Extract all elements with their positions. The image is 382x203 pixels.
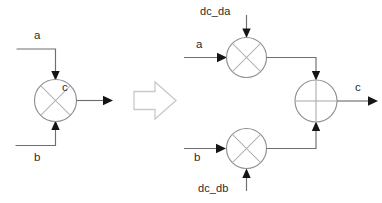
right-bottom-multiplier-node: [227, 129, 267, 169]
right-input-a-wire: [184, 53, 227, 62]
label-right-input-b: b: [194, 152, 200, 164]
transform-arrow-icon: [134, 82, 176, 119]
left-multiplier-node: [35, 80, 77, 122]
diagram-canvas: a c b dc_da a b dc_db c: [0, 0, 382, 203]
left-input-b-wire: [16, 121, 60, 146]
label-left-output-c: c: [62, 82, 68, 94]
left-input-a-wire: [17, 49, 60, 81]
label-right-output-c: c: [355, 82, 361, 94]
label-left-input-a: a: [34, 30, 40, 42]
bottom-multiplier-to-adder-wire: [267, 122, 321, 149]
label-right-input-a: a: [196, 39, 202, 51]
right-top-multiplier-node: [227, 38, 267, 78]
top-multiplier-to-adder-wire: [267, 58, 321, 81]
label-left-input-b: b: [34, 152, 40, 164]
diagram-svg: [0, 0, 382, 203]
right-input-b-wire: [184, 144, 226, 153]
right-input-dc-db-wire: [242, 169, 250, 192]
right-input-dc-da-wire: [242, 15, 250, 38]
right-output-c-wire: [337, 96, 378, 105]
adder-node: [295, 80, 337, 122]
left-output-c-wire: [77, 96, 114, 105]
label-right-input-dc-db: dc_db: [198, 183, 228, 194]
label-right-input-dc-da: dc_da: [200, 6, 230, 17]
